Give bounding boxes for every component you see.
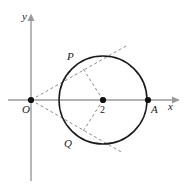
point-label-a: A	[151, 104, 158, 115]
point-marker-center	[100, 97, 106, 103]
axis-label-y: y	[22, 11, 27, 22]
tangent-line-op	[31, 46, 126, 100]
tangent-line-oq	[31, 100, 123, 153]
point-label-q: Q	[64, 138, 72, 149]
radius-line-cp	[82, 67, 103, 100]
point-label-origin: O	[22, 104, 30, 115]
geometry-figure: y x O 2 A P Q	[0, 0, 192, 188]
point-label-p: P	[67, 51, 74, 62]
axis-label-x: x	[168, 101, 173, 112]
point-label-center-value: 2	[100, 104, 105, 115]
x-axis-arrow-icon	[172, 97, 180, 104]
y-axis-arrow-icon	[28, 14, 35, 22]
figure-canvas	[0, 0, 192, 188]
